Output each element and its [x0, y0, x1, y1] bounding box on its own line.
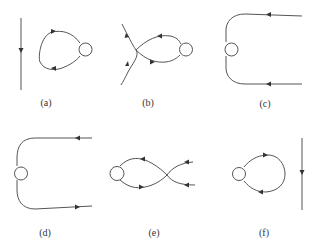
loop-lower — [136, 50, 180, 62]
vertex-circle — [79, 43, 92, 56]
arrow-left-icon — [266, 12, 271, 17]
arrow-left-icon — [157, 34, 162, 39]
panel-label: (f) — [259, 227, 269, 239]
arrow-left-icon — [140, 157, 145, 162]
arrow-right-icon — [75, 205, 80, 210]
panel-e: (e) — [110, 157, 195, 240]
vertex-circle — [15, 167, 28, 180]
upper-line — [17, 138, 92, 166]
loop-upper — [136, 36, 181, 50]
panel-label: (e) — [148, 227, 159, 239]
panel-label: (c) — [259, 98, 270, 110]
arrow-left-icon — [266, 82, 271, 87]
vertex-circle — [233, 168, 246, 181]
vertex-circle — [225, 43, 238, 56]
upper-line — [120, 158, 193, 175]
panel-f: (f) — [233, 138, 305, 239]
arrow-right-icon — [263, 153, 268, 158]
arrow-icon — [125, 61, 129, 66]
diagram-figure: (a) (b) (c) (d) (e) — [0, 0, 315, 252]
lower-line — [120, 175, 195, 188]
panel-a: (a) — [19, 18, 93, 109]
crossing-line — [121, 24, 137, 85]
loop — [39, 31, 80, 69]
arrow-down-icon — [300, 170, 305, 175]
arrow-right-icon — [139, 185, 144, 190]
arrow-left-icon — [75, 136, 80, 141]
panel-label: (b) — [142, 97, 154, 109]
lower-line — [17, 180, 92, 209]
lower-line — [226, 56, 302, 84]
arrow-left-icon — [184, 183, 189, 188]
upper-line — [226, 14, 302, 42]
panel-d: (d) — [15, 136, 93, 240]
arrow-left-icon — [258, 190, 263, 195]
vertex-circle — [180, 43, 193, 56]
loop — [244, 155, 285, 192]
panel-b: (b) — [121, 24, 193, 109]
panel-label: (a) — [40, 97, 51, 109]
panel-label: (d) — [39, 227, 51, 239]
panel-c: (c) — [225, 12, 302, 110]
vertex-circle — [110, 167, 124, 181]
arrow-right-icon — [51, 66, 56, 71]
arrow-down-icon — [19, 48, 24, 53]
